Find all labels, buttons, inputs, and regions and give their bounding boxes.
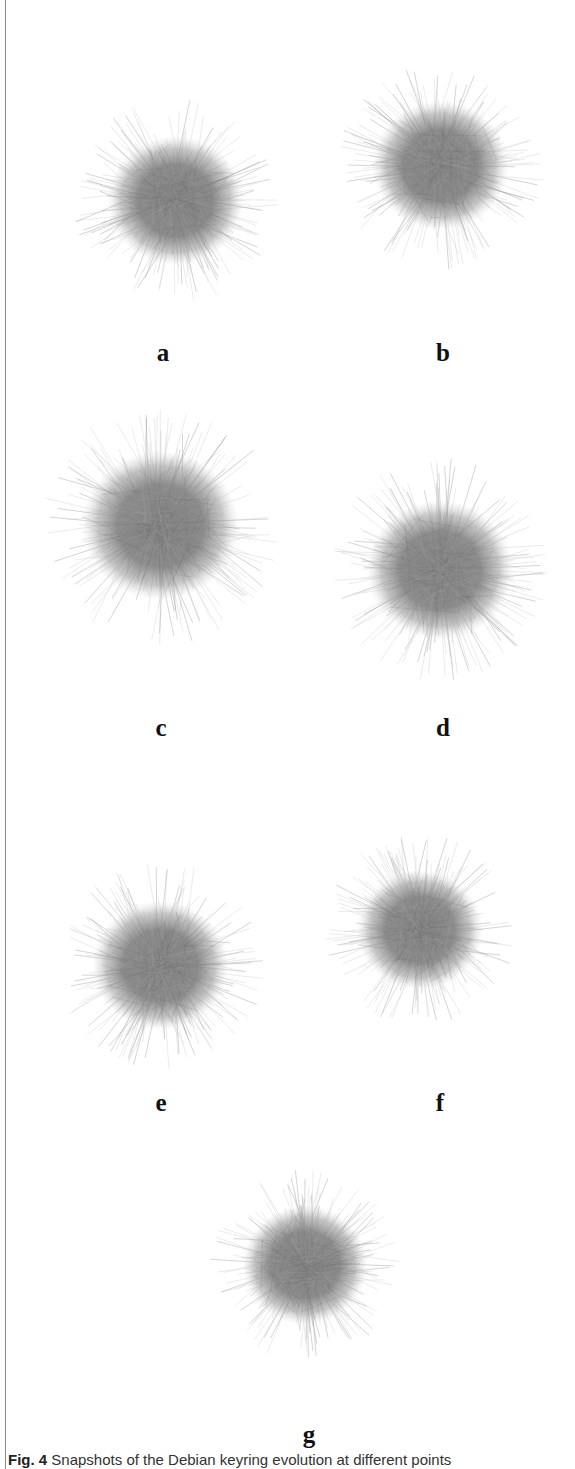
panel-label-g: g [303,1422,316,1447]
panel-label-e: e [155,1090,166,1115]
network-panel-e [50,855,271,1076]
network-panel-a [65,90,286,311]
panel-label-f: f [436,1090,444,1115]
figure-caption: Fig. 4 Snapshots of the Debian keyring e… [8,1451,451,1469]
network-panel-d [321,451,559,689]
network-panel-c [33,398,288,653]
network-graph-icon [33,398,288,653]
caption-text: Snapshots of the Debian keyring evolutio… [47,1451,451,1468]
network-graph-icon [203,1163,407,1367]
network-graph-icon [321,451,559,689]
panel-label-b: b [436,340,450,365]
network-graph-icon [318,828,522,1032]
figure-number: Fig. 4 [8,1451,47,1468]
network-panel-f [318,828,522,1032]
network-graph-icon [50,855,271,1076]
network-panel-g [203,1163,407,1367]
panel-label-a: a [157,340,170,365]
network-panel-b [330,55,551,276]
network-graph-icon [330,55,551,276]
network-graph-icon [65,90,286,311]
panel-label-d: d [436,715,450,740]
panel-label-c: c [155,715,166,740]
left-column-rule [5,0,6,1469]
